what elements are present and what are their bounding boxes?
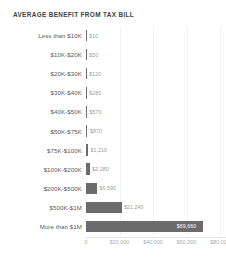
bar-row[interactable]: $40K-$50K$570 [0, 102, 226, 121]
chart-title: AVERAGE BENEFIT FROM TAX BILL [13, 11, 134, 18]
bar-series: Less than $10K$10$10K-$20K$50$20K-$30K$1… [0, 26, 226, 236]
bar-track: $2,280 [86, 160, 226, 179]
bar-row[interactable]: Less than $10K$10 [0, 26, 226, 45]
bar-value-label: $570 [87, 109, 101, 115]
category-label: $50K-$75K [0, 128, 86, 135]
bar-row[interactable]: $10K-$20K$50 [0, 45, 226, 64]
bar[interactable] [86, 202, 122, 214]
category-label: Less than $10K [0, 32, 86, 39]
plot-area: Less than $10K$10$10K-$20K$50$20K-$30K$1… [0, 26, 226, 238]
category-label: $75K-$100K [0, 147, 86, 154]
bar-value-label: $50 [87, 52, 98, 58]
category-label: More than $1M [0, 223, 86, 230]
category-label: $40K-$50K [0, 108, 86, 115]
bar-track: $6,590 [86, 179, 226, 198]
x-tick-label: $20,000 [110, 239, 129, 245]
bar-value-label: $69,660 [177, 223, 196, 229]
bar-row[interactable]: More than $1M$69,660 [0, 217, 226, 236]
category-label: $100K-$200K [0, 166, 86, 173]
bar-row[interactable]: $500K-$1M$21,240 [0, 198, 226, 217]
bar-value-label: $21,240 [122, 204, 144, 210]
bar-track: $1,210 [86, 141, 226, 160]
bar-row[interactable]: $75K-$100K$1,210 [0, 141, 226, 160]
bar-row[interactable]: $50K-$75K$870 [0, 121, 226, 140]
x-axis-ticks: 0$20,000$40,000$60,000$80,000 [86, 238, 226, 250]
bar-value-label: $870 [87, 128, 101, 134]
bar-track: $21,240 [86, 198, 226, 217]
bar-track: $10 [86, 26, 226, 45]
bar[interactable] [86, 183, 97, 195]
bar-value-label: $280 [87, 90, 101, 96]
bar-track: $870 [86, 121, 226, 140]
bar-row[interactable]: $100K-$200K$2,280 [0, 160, 226, 179]
category-label: $30K-$40K [0, 89, 86, 96]
bar-track: $50 [86, 45, 226, 64]
bar-track: $570 [86, 102, 226, 121]
x-tick-label: $80,000 [210, 239, 226, 245]
bar-value-label: $1,210 [88, 147, 107, 153]
bar-track: $280 [86, 83, 226, 102]
bar-track: $120 [86, 64, 226, 83]
bar-value-label: $10 [87, 33, 98, 39]
bar-row[interactable]: $30K-$40K$280 [0, 83, 226, 102]
category-label: $10K-$20K [0, 51, 86, 58]
category-label: $20K-$30K [0, 70, 86, 77]
x-tick-label: $40,000 [143, 239, 162, 245]
bar-track: $69,660 [86, 217, 226, 236]
bar-value-label: $6,590 [97, 185, 116, 191]
x-tick-label: 0 [85, 239, 88, 245]
category-label: $500K-$1M [0, 204, 86, 211]
bar-value-label: $2,280 [90, 166, 109, 172]
bar-row[interactable]: $200K-$500K$6,590 [0, 179, 226, 198]
x-tick-label: $60,000 [177, 239, 196, 245]
bar-row[interactable]: $20K-$30K$120 [0, 64, 226, 83]
chart-container: AVERAGE BENEFIT FROM TAX BILL Less than … [0, 0, 226, 264]
category-label: $200K-$500K [0, 185, 86, 192]
bar-value-label: $120 [87, 71, 101, 77]
